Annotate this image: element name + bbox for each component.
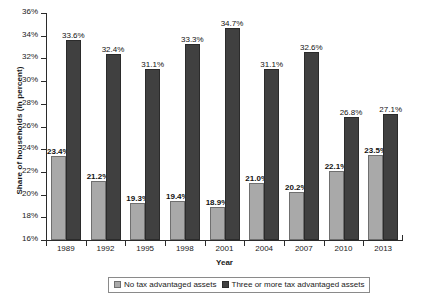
bar-group: 23.5%27.1% (368, 13, 398, 240)
bar-group: 20.2%32.6% (289, 13, 319, 240)
bar[interactable]: 23.4% (51, 156, 66, 240)
grouped-bar-chart: Share of households (in percent) 36%34%3… (0, 0, 421, 302)
y-axis-tick: 32% (41, 58, 46, 59)
bar-value-label: 31.1% (141, 60, 164, 69)
legend-swatch (222, 281, 229, 288)
x-axis-line (46, 240, 403, 241)
bar-value-label: 31.1% (260, 60, 283, 69)
x-axis-title: Year (46, 258, 403, 267)
bar-value-label: 34.7% (221, 19, 244, 28)
legend-label: No tax advantaged assets (124, 280, 217, 289)
y-axis-tick: 20% (41, 195, 46, 196)
bar[interactable]: 33.3% (185, 44, 200, 240)
bar-value-label: 32.6% (300, 43, 323, 52)
legend-swatch (114, 281, 121, 288)
legend-entry[interactable]: No tax advantaged assets (114, 280, 217, 289)
y-axis-tick-label: 24% (22, 143, 38, 152)
bar[interactable]: 31.1% (145, 69, 160, 240)
y-axis-tick-label: 16% (22, 234, 38, 243)
bar[interactable]: 18.9% (210, 207, 225, 240)
bar[interactable]: 20.2% (289, 192, 304, 240)
bar-group: 22.1%26.8% (329, 13, 359, 240)
y-axis-tick: 24% (41, 149, 46, 150)
bar-group: 21.2%32.4% (91, 13, 121, 240)
bar-value-label: 27.1% (379, 105, 402, 114)
y-axis-tick: 28% (41, 104, 46, 105)
y-axis-tick-label: 26% (22, 121, 38, 130)
bar[interactable]: 21.2% (91, 181, 106, 240)
bar-group: 18.9%34.7% (210, 13, 240, 240)
plot-area: 36%34%32%30%28%26%24%22%20%18%16% 23.4%3… (46, 13, 403, 240)
bar-value-label: 32.4% (102, 45, 125, 54)
y-axis-tick-label: 30% (22, 75, 38, 84)
bar[interactable]: 19.4% (170, 201, 185, 240)
y-axis-tick: 34% (41, 36, 46, 37)
bar[interactable]: 22.1% (329, 171, 344, 240)
bar[interactable]: 26.8% (344, 117, 359, 240)
bar[interactable]: 23.5% (368, 155, 383, 240)
y-axis-tick: 26% (41, 127, 46, 128)
y-axis-tick-label: 34% (22, 30, 38, 39)
y-axis-tick-label: 28% (22, 98, 38, 107)
x-axis-category-label: 2013 (359, 244, 407, 253)
y-axis-tick-label: 32% (22, 52, 38, 61)
y-axis-line (46, 13, 47, 241)
bar[interactable]: 33.6% (66, 40, 81, 240)
y-axis-tick: 30% (41, 81, 46, 82)
chart-legend: No tax advantaged assetsThree or more ta… (108, 277, 370, 293)
bar-value-label: 26.8% (340, 108, 363, 117)
bar[interactable]: 32.4% (106, 54, 121, 240)
bar-group: 19.3%31.1% (130, 13, 160, 240)
y-axis-tick-label: 22% (22, 166, 38, 175)
bar[interactable]: 31.1% (264, 69, 279, 240)
y-axis-tick: 18% (41, 217, 46, 218)
bar-group: 23.4%33.6% (51, 13, 81, 240)
bar[interactable]: 32.6% (304, 52, 319, 240)
bar[interactable]: 21.0% (249, 183, 264, 240)
bar-group: 21.0%31.1% (249, 13, 279, 240)
bar[interactable]: 27.1% (383, 114, 398, 240)
y-axis-tick-label: 36% (22, 7, 38, 16)
y-axis-tick-label: 18% (22, 211, 38, 220)
legend-entry[interactable]: Three or more tax advantaged assets (222, 280, 365, 289)
bar[interactable]: 19.3% (130, 203, 145, 240)
x-axis-right-cap (402, 235, 403, 241)
legend-label: Three or more tax advantaged assets (232, 280, 365, 289)
bar-group: 19.4%33.3% (170, 13, 200, 240)
bar[interactable]: 34.7% (225, 28, 240, 240)
bar-value-label: 33.3% (181, 35, 204, 44)
bar-value-label: 33.6% (62, 31, 85, 40)
y-axis-tick: 36% (41, 13, 46, 14)
y-axis-tick: 22% (41, 172, 46, 173)
y-axis-tick-label: 20% (22, 189, 38, 198)
